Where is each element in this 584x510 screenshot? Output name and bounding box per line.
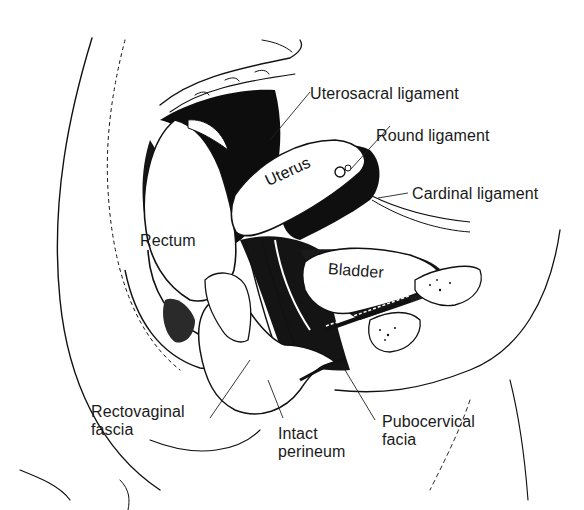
label-rectovaginal-fascia: Rectovaginal fascia (91, 403, 185, 439)
pubic-bone-lower (369, 313, 421, 353)
anatomical-figure: Uterosacral ligament Round ligament Card… (0, 0, 584, 510)
label-line: fascia (91, 421, 185, 439)
anal-sphincter-hatch (163, 299, 195, 343)
label-cardinal-ligament: Cardinal ligament (412, 185, 538, 203)
label-intact-perineum: Intact perineum (278, 425, 346, 461)
label-line: Rectovaginal (91, 403, 185, 421)
label-uterosacral-ligament: Uterosacral ligament (310, 85, 459, 103)
label-line: Pubocervical (382, 413, 475, 431)
label-bladder: Bladder (327, 260, 384, 282)
label-pubocervical-facia: Pubocervical facia (382, 413, 475, 449)
label-round-ligament: Round ligament (376, 127, 489, 145)
label-line: Intact (278, 425, 346, 443)
label-rectum: Rectum (140, 232, 196, 250)
label-line: perineum (278, 443, 346, 461)
label-line: facia (382, 431, 475, 449)
